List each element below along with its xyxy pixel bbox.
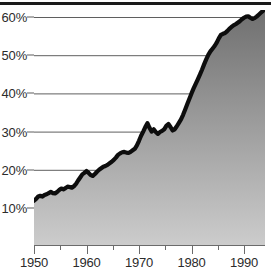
x-tick-major-1950 [34, 245, 35, 254]
x-tick-major-1960 [87, 245, 88, 254]
y-tick-stub-50 [27, 55, 34, 56]
x-tick-label-1990: 1990 [230, 255, 258, 270]
x-tick-minor-1955 [60, 245, 61, 250]
x-tick-minor-1985 [218, 245, 219, 250]
y-tick-label-40: 40% [2, 86, 27, 101]
y-tick-stub-20 [27, 169, 34, 170]
y-tick-stub-10 [27, 208, 34, 209]
x-tick-label-1980: 1980 [177, 255, 205, 270]
x-axis-line [34, 245, 265, 246]
x-tick-major-1970 [139, 245, 140, 254]
x-tick-label-1960: 1960 [72, 255, 100, 270]
plot-area [34, 10, 265, 245]
y-tick-label-60: 60% [2, 10, 27, 25]
y-tick-label-20: 20% [2, 162, 27, 177]
x-tick-major-1980 [192, 245, 193, 254]
x-tick-minor-1965 [113, 245, 114, 250]
y-axis-labels: 10%20%30%40%50%60% [0, 0, 34, 278]
x-tick-label-1970: 1970 [125, 255, 153, 270]
x-axis-labels: 19501960197019801990 [0, 255, 271, 277]
chart-container: 10%20%30%40%50%60% 19501960197019801990 [0, 0, 271, 278]
top-border-rule [0, 2, 271, 5]
x-tick-minor-1975 [165, 245, 166, 250]
y-tick-label-10: 10% [2, 201, 27, 216]
y-tick-stub-60 [27, 17, 34, 18]
y-tick-stub-40 [27, 93, 34, 94]
area-chart-svg [34, 10, 265, 245]
x-tick-label-1950: 1950 [20, 255, 48, 270]
x-tick-major-1990 [244, 245, 245, 254]
y-tick-label-30: 30% [2, 124, 27, 139]
y-tick-label-50: 50% [2, 48, 27, 63]
y-tick-stub-30 [27, 131, 34, 132]
